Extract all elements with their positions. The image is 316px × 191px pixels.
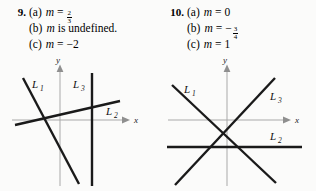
y-axis-label: y xyxy=(222,58,227,65)
answer-label: (a) xyxy=(29,4,46,20)
line-L1 xyxy=(23,78,79,184)
svg-text:L: L xyxy=(269,130,276,142)
fraction-denominator: 3 xyxy=(67,17,73,25)
answer-value: −2 xyxy=(67,36,81,52)
answer-label: (b) xyxy=(29,20,46,36)
label-L3: L 3 xyxy=(72,78,85,93)
slope-variable: m xyxy=(204,36,215,52)
problem-9-graph: y x L 1 L 3 L 2 xyxy=(0,58,158,191)
x-axis-label: x xyxy=(133,115,138,125)
slope-variable: m xyxy=(46,36,57,52)
fraction-denominator: 4 xyxy=(233,33,239,41)
problem-10-graph: y x L 1 L 3 L 2 xyxy=(158,58,316,191)
svg-text:1: 1 xyxy=(40,84,44,93)
answer-label: (c) xyxy=(29,36,46,52)
label-L3: L 3 xyxy=(269,90,282,105)
answer-row: (c) m = −2 xyxy=(0,36,158,52)
problem-number: 9. xyxy=(0,4,29,20)
label-L1: L 1 xyxy=(31,78,44,93)
svg-text:L: L xyxy=(183,83,190,95)
exercise-page: 9. (a) m = 2 3 (b) m is undefined. (c) m… xyxy=(0,0,316,191)
svg-text:2: 2 xyxy=(278,136,282,145)
slope-variable: m xyxy=(204,20,215,36)
svg-text:3: 3 xyxy=(277,96,282,105)
problem-10: 10. (a) m = 0 (b) m = − 3 4 (c) m xyxy=(158,0,316,191)
svg-text:1: 1 xyxy=(192,89,196,98)
answer-row: 9. (a) m = 2 3 xyxy=(0,4,158,20)
svg-text:L: L xyxy=(31,78,38,90)
svg-text:2: 2 xyxy=(114,111,118,120)
answer-value: 1 xyxy=(225,36,233,52)
problem-number: 10. xyxy=(158,4,187,20)
answer-label: (b) xyxy=(187,20,204,36)
answer-row: 10. (a) m = 0 xyxy=(158,4,316,20)
label-L2: L 2 xyxy=(269,130,282,145)
answer-value: 0 xyxy=(225,4,233,20)
problem-9: 9. (a) m = 2 3 (b) m is undefined. (c) m… xyxy=(0,0,158,191)
y-axis-label: y xyxy=(55,58,60,65)
answer-label: (a) xyxy=(187,4,204,20)
line-L2 xyxy=(15,101,120,125)
relation-symbol: = xyxy=(216,20,226,36)
svg-text:3: 3 xyxy=(80,84,85,93)
answer-row: (b) m = − 3 4 xyxy=(158,20,316,36)
problem-9-answers: 9. (a) m = 2 3 (b) m is undefined. (c) m… xyxy=(0,4,158,52)
slope-variable: m xyxy=(46,20,57,36)
fraction-value: 3 4 xyxy=(233,26,239,41)
problem-10-answers: 10. (a) m = 0 (b) m = − 3 4 (c) m xyxy=(158,4,316,52)
slope-variable: m xyxy=(204,4,215,20)
slope-variable: m xyxy=(46,4,57,20)
fraction-value: 2 3 xyxy=(67,10,73,25)
x-axis xyxy=(168,117,291,124)
y-axis xyxy=(57,65,64,187)
label-L2: L 2 xyxy=(105,105,118,120)
svg-text:L: L xyxy=(105,105,112,117)
answer-row: (b) m is undefined. xyxy=(0,20,158,36)
svg-text:L: L xyxy=(72,78,79,90)
fraction-numerator: 2 xyxy=(67,10,73,17)
relation-symbol: = xyxy=(215,4,225,20)
relation-symbol: = xyxy=(57,4,67,20)
x-axis-label: x xyxy=(294,115,299,125)
fraction-numerator: 3 xyxy=(233,26,239,33)
relation-symbol: = xyxy=(215,36,225,52)
negative-sign: − xyxy=(225,20,233,36)
answer-label: (c) xyxy=(187,36,204,52)
svg-text:L: L xyxy=(269,90,276,102)
relation-symbol: = xyxy=(57,36,67,52)
